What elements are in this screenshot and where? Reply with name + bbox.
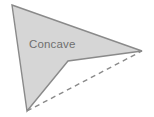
concave-label: Concave [29, 37, 75, 51]
concave-polygon-shape [12, 5, 142, 111]
concave-polygon-figure [0, 0, 154, 117]
figure-container: Concave [0, 0, 154, 117]
